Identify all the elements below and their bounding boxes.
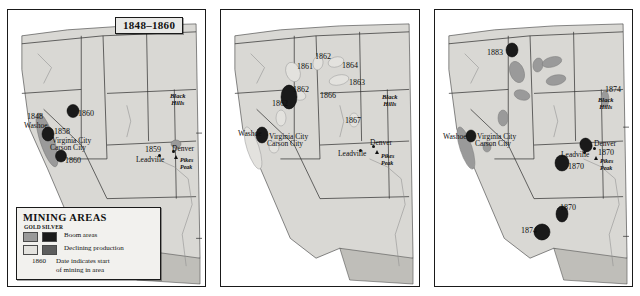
label-leadville: Leadville [561, 151, 589, 160]
legend-header-silver: SILVER [42, 224, 56, 230]
label-washoe: Washoe [24, 122, 48, 131]
legend-date-sample: 1860 [23, 257, 55, 266]
label-1860-south: 1860 [65, 157, 81, 166]
legend-label-boom: Boom areas [61, 231, 97, 240]
label-1870-south: 1870 [560, 204, 576, 213]
label-denver: Denver [172, 145, 194, 154]
panel-divider-1 [212, 0, 214, 296]
legend-date-note: Date indicates start of mining in area [55, 257, 110, 274]
marker-pikes-peak [594, 156, 598, 160]
label-1861: 1861 [297, 63, 313, 72]
label-1870-leadville: 1870 [568, 163, 584, 172]
legend-date-note-line1: Date indicates start [56, 257, 110, 266]
legend-label-declining: Declining production [61, 244, 124, 253]
map-panel-1861-1869: 1861–1869 [213, 0, 427, 296]
label-carson-city: Carson City [475, 140, 511, 149]
swatch-gold-declining [23, 245, 38, 255]
label-1863: 1863 [349, 79, 365, 88]
label-carson-city: Carson City [50, 144, 86, 153]
label-1867: 1867 [345, 117, 361, 126]
label-black-hills: BlackHills [170, 92, 186, 106]
legend-header-gold: GOLD [24, 224, 38, 230]
legend-column-headers: GOLD SILVER [24, 224, 155, 230]
mining-areas-legend: MINING AREAS GOLD SILVER Boom areas Decl… [16, 207, 161, 280]
legend-row-boom: Boom areas [23, 231, 155, 242]
label-washoe: Washoe [238, 130, 262, 139]
label-pikes-peak: PikesPeak [180, 157, 193, 170]
label-leadville: Leadville [338, 150, 366, 159]
label-1860-north: 1860 [78, 110, 94, 119]
label-1870-denver: 1870 [598, 149, 614, 158]
swatch-gold-boom [23, 232, 38, 242]
period-title-1: 1848–1860 [115, 17, 183, 34]
marker-pikes-peak [174, 155, 178, 159]
swatch-silver-declining [42, 245, 57, 255]
mining-areas-figure: 1848–1860 MINING AREAS GOLD SILVER Boom … [0, 0, 640, 296]
label-carson-city: Carson City [267, 140, 303, 149]
marker-pikes-peak [375, 150, 379, 154]
swatch-silver-boom [42, 232, 57, 242]
label-1864: 1864 [342, 62, 358, 71]
label-1862-nevada: 1862 [272, 100, 288, 109]
legend-row-date: 1860 Date indicates start of mining in a… [23, 257, 155, 274]
label-1883: 1883 [487, 49, 503, 58]
label-leadville: Leadville [136, 156, 164, 165]
label-1862-north: 1862 [315, 53, 331, 62]
label-washoe: Washoe [443, 133, 467, 142]
legend-date-note-line2: of mining in area [56, 266, 110, 275]
legend-row-declining: Declining production [23, 244, 155, 255]
label-1866: 1866 [320, 92, 336, 101]
label-denver: Denver [370, 139, 392, 148]
label-1862-idaho: 1862 [293, 86, 309, 95]
label-1874-black-hills: 1874 [605, 86, 621, 95]
label-pikes-peak: PikesPeak [381, 153, 394, 166]
panel-divider-2 [426, 0, 428, 296]
label-black-hills: BlackHills [382, 93, 398, 107]
label-1859: 1859 [145, 146, 161, 155]
label-1874-south: 1874 [521, 227, 537, 236]
label-pikes-peak: PikesPeak [600, 158, 613, 171]
label-black-hills: BlackHills [598, 96, 614, 110]
legend-title: MINING AREAS [23, 212, 155, 223]
map-frame-2 [220, 9, 420, 287]
